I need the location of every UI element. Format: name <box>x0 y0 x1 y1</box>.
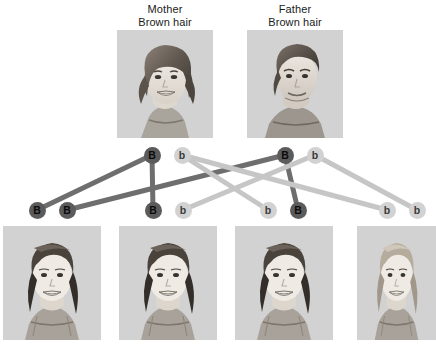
allele-child4-a1[interactable]: b <box>379 202 396 219</box>
allele-child1-a1[interactable]: B <box>29 202 46 219</box>
allele-mother-b[interactable]: b <box>174 147 191 164</box>
allele-child3-a2[interactable]: B <box>290 202 307 219</box>
allele-child3-a1[interactable]: b <box>260 202 277 219</box>
allele-link-lines <box>0 0 436 345</box>
allele-father-B[interactable]: B <box>277 147 294 164</box>
allele-mother-B[interactable]: B <box>144 147 161 164</box>
allele-father-b[interactable]: b <box>307 147 324 164</box>
allele-child2-a2[interactable]: b <box>175 202 192 219</box>
allele-child2-a1[interactable]: B <box>145 202 162 219</box>
allele-child1-a2[interactable]: B <box>59 202 76 219</box>
pedigree-diagram: Mother Brown hair Father Brown hair <box>0 0 436 345</box>
allele-child4-a2[interactable]: b <box>409 202 426 219</box>
link-fatherb-child4 <box>315 155 417 210</box>
